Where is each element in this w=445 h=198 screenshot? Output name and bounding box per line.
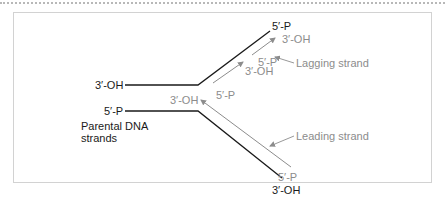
lagging-frag2-5prime-label: 5′-P <box>216 89 235 101</box>
lagging-fragment-2 <box>213 62 243 83</box>
lagging-frag2-3prime-label: 3′-OH <box>245 65 273 77</box>
leading-5prime-label: 5′-P <box>278 171 297 183</box>
lagging-fragment-1 <box>252 38 275 55</box>
leading-strand-callout: Leading strand <box>296 130 369 142</box>
top-parent-5prime-label: 5′-P <box>272 20 291 32</box>
parental-caption-line2: strands <box>81 132 117 144</box>
leading-3prime-label: 3′-OH <box>170 94 198 106</box>
leading-callout-pointer <box>270 136 294 146</box>
bottom-parental-strand <box>125 111 282 178</box>
leading-strand <box>201 100 291 167</box>
parental-caption-line1: Parental DNA <box>81 120 148 132</box>
top-parent-3prime-label: 3′-OH <box>95 79 123 91</box>
bottom-parent-5prime-label: 5′-P <box>104 105 123 117</box>
lagging-callout-pointer <box>275 57 294 63</box>
bottom-parent-3prime-label: 3′-OH <box>272 184 300 196</box>
lagging-strand-callout: Lagging strand <box>296 57 369 69</box>
lagging-frag1-3prime-label: 3′-OH <box>282 33 310 45</box>
